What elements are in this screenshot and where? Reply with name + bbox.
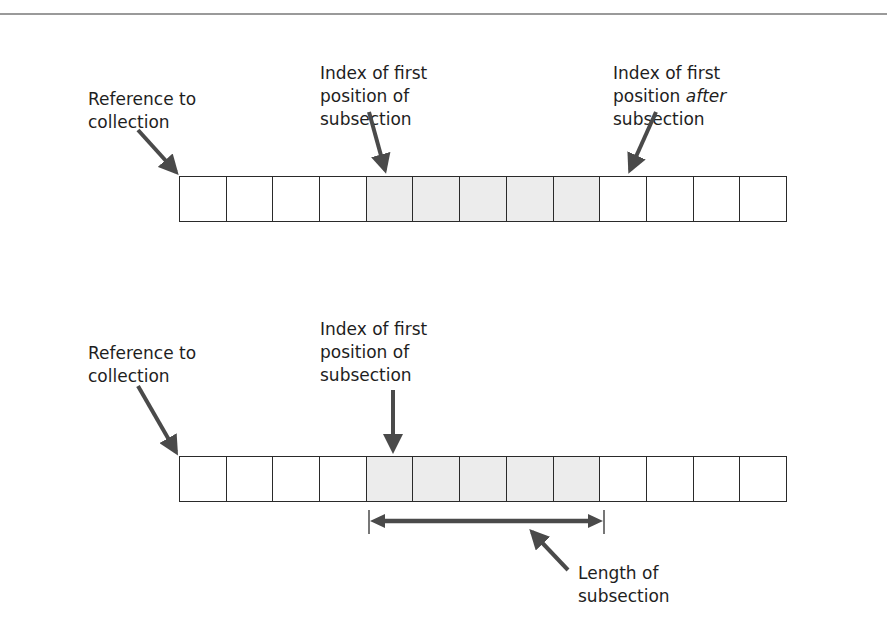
array-cell <box>227 457 274 501</box>
array-cell-subsection <box>367 177 414 221</box>
array-cell-subsection <box>413 457 460 501</box>
arrow-icon-reference-top <box>138 130 176 172</box>
array-cell <box>600 177 647 221</box>
array-cell <box>227 177 274 221</box>
array-cell-subsection <box>367 457 414 501</box>
array-cell-subsection <box>507 177 554 221</box>
array-cell <box>273 457 320 501</box>
label-after-line2-text: position <box>613 86 686 106</box>
label-first-index-top: Index of first position of subsection <box>320 62 427 131</box>
array-cell <box>180 177 227 221</box>
collection-array-bottom <box>179 456 787 502</box>
array-cell <box>320 177 367 221</box>
label-reference-to-collection-top: Reference to collection <box>88 88 196 134</box>
array-cell <box>180 457 227 501</box>
length-dimension-icon <box>369 510 604 534</box>
array-cell-subsection <box>413 177 460 221</box>
label-reference-to-collection-bottom: Reference to collection <box>88 342 196 388</box>
label-after-italic: after <box>686 86 727 106</box>
collection-array-top <box>179 176 787 222</box>
label-after-line2: position after <box>613 85 726 108</box>
array-cell <box>647 457 694 501</box>
array-cell <box>694 177 741 221</box>
array-cell <box>320 457 367 501</box>
array-cell-subsection <box>507 457 554 501</box>
array-cell <box>694 457 741 501</box>
label-after-line1: Index of first <box>613 62 726 85</box>
label-after-index-top: Index of first position after subsection <box>613 62 726 131</box>
arrow-icon-reference-bottom <box>138 386 176 452</box>
array-cell <box>740 457 787 501</box>
array-cell <box>600 457 647 501</box>
label-after-line3: subsection <box>613 108 726 131</box>
array-cell-subsection <box>460 177 507 221</box>
array-cell <box>273 177 320 221</box>
array-cell <box>740 177 787 221</box>
array-cell <box>647 177 694 221</box>
array-cell-subsection <box>460 457 507 501</box>
array-cell-subsection <box>554 457 601 501</box>
label-first-index-bottom: Index of first position of subsection <box>320 318 427 387</box>
top-rule <box>0 13 887 15</box>
label-length-of-subsection: Length of subsection <box>578 562 670 608</box>
arrow-icon-length <box>532 532 568 570</box>
array-cell-subsection <box>554 177 601 221</box>
